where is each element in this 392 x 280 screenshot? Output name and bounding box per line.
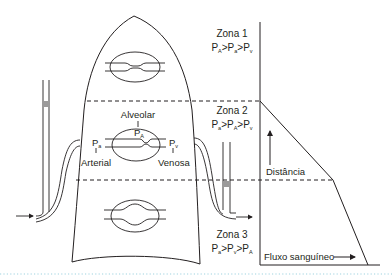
west-zones-diagram: Alveolar PA Pa Pv Arterial Venosa Zona 1… <box>0 0 392 280</box>
flow-label: Fluxo sanguíneo <box>264 251 334 262</box>
flow-curve <box>260 101 368 265</box>
alveolar-label: Alveolar <box>121 109 155 120</box>
pA-label: PA <box>134 127 144 139</box>
zone-2-label: Zona 2 Pa>PA>Pv <box>211 105 252 131</box>
pa-label: Pa <box>92 137 102 149</box>
zone-3-label: Zona 3 Pa>Pv>PA <box>211 229 253 255</box>
flow-graph <box>260 22 380 265</box>
svg-text:PA>Pa>Pv: PA>Pa>Pv <box>211 42 252 54</box>
venosa-label: Venosa <box>158 157 190 168</box>
arterial-label: Arterial <box>81 157 111 168</box>
svg-text:Zona 1: Zona 1 <box>216 28 248 39</box>
capillary-zone1 <box>105 52 165 82</box>
zone-1-label: Zona 1 PA>Pa>Pv <box>211 28 252 54</box>
capillary-zone3 <box>104 200 166 232</box>
svg-text:Pa>Pv>PA: Pa>Pv>PA <box>211 243 253 255</box>
pv-label: Pv <box>169 137 178 149</box>
arterial-manometer <box>16 80 80 222</box>
svg-text:Pa>PA>Pv: Pa>PA>Pv <box>211 119 252 131</box>
svg-text:Zona 3: Zona 3 <box>216 229 248 240</box>
svg-text:Zona 2: Zona 2 <box>216 105 248 116</box>
distance-label: Distância <box>266 166 306 177</box>
venous-manometer <box>194 138 252 219</box>
